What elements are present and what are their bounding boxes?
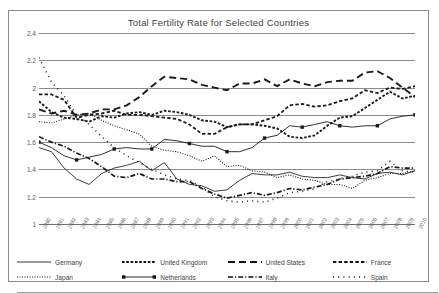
y-axis-tick-label: 2.2 (27, 57, 36, 64)
legend-label: Germany (55, 259, 82, 266)
series-line (39, 71, 415, 115)
legend-row-2: JapanNetherlandsItalySpain (17, 270, 438, 284)
legend-key-icon (17, 257, 51, 267)
y-axis-tick-label: 1 (32, 221, 36, 228)
legend-label: Spain (371, 274, 388, 281)
series-line (39, 58, 415, 203)
series-marker (188, 142, 191, 145)
legend-key-icon (228, 272, 262, 282)
y-axis-tick-label: 1.8 (27, 111, 36, 118)
series-marker (225, 150, 228, 153)
y-axis-tick-label: 1.6 (27, 139, 36, 146)
legend-key-icon (122, 272, 156, 282)
legend-item[interactable]: Germany (17, 255, 122, 269)
legend-key-icon (122, 257, 156, 267)
legend-item[interactable]: Italy (228, 270, 333, 284)
chart-legend: GermanyUnited KingdomUnited StatesFrance… (17, 255, 438, 293)
legend-label: Japan (55, 274, 73, 281)
x-axis-labels: 1980198119821983198419851986198719881989… (39, 227, 415, 255)
y-axis-tick-label: 1.2 (27, 193, 36, 200)
series-line (39, 148, 415, 192)
legend-item[interactable]: France (333, 255, 438, 269)
series-marker (150, 147, 153, 150)
legend-label: Italy (266, 274, 278, 281)
series-marker (338, 124, 341, 127)
plot-area: 11.21.41.61.822.22.4 (39, 33, 415, 224)
legend-item[interactable]: United States (228, 255, 333, 269)
series-marker (39, 140, 41, 143)
legend-key-icon (228, 257, 262, 267)
series-marker (263, 136, 266, 139)
legend-key-icon (333, 272, 367, 282)
legend-label: United States (266, 259, 306, 266)
series-marker (301, 125, 304, 128)
legend-label: Netherlands (160, 274, 196, 281)
legend-row-1: GermanyUnited KingdomUnited StatesFrance (17, 255, 438, 269)
legend-item[interactable]: United Kingdom (122, 255, 227, 269)
legend-key-icon (333, 257, 367, 267)
chart-title: Total Fertility Rate for Selected Countr… (9, 17, 428, 28)
series-marker (376, 124, 379, 127)
y-axis-tick-label: 2.4 (27, 30, 36, 37)
series-canvas (39, 33, 415, 224)
series-marker (75, 158, 78, 161)
legend-item[interactable]: Spain (333, 270, 438, 284)
chart-frame: Total Fertility Rate for Selected Countr… (8, 10, 429, 282)
legend-key-icon (17, 272, 51, 282)
series-line (39, 137, 415, 198)
legend-label: France (371, 259, 392, 266)
x-axis-tick-label: 2010 (417, 216, 428, 229)
y-axis-tick-label: 1.4 (27, 166, 36, 173)
legend-item[interactable]: Netherlands (122, 270, 227, 284)
legend-label: United Kingdom (160, 259, 207, 266)
legend-item[interactable]: Japan (17, 270, 122, 284)
series-marker (413, 113, 415, 116)
y-axis-tick-label: 2 (32, 84, 36, 91)
